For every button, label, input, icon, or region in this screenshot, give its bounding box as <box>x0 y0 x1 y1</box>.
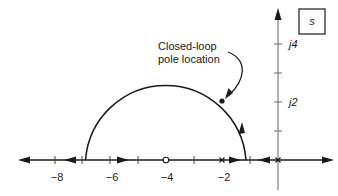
arrow-left-icon <box>64 157 76 164</box>
arrow-right-icon <box>229 157 241 164</box>
open-loop-zero-marker <box>163 157 169 163</box>
root-locus-arc <box>86 85 247 160</box>
tick-label-minus-8: −8 <box>51 171 64 183</box>
closed-loop-pole-marker <box>219 98 224 103</box>
arrow-left-icon <box>258 157 270 164</box>
tick-label-j4: j4 <box>287 38 298 50</box>
tick-label-minus-6: −6 <box>106 171 119 183</box>
arc-direction-arrow-icon <box>239 122 246 134</box>
tick-label-j2: j2 <box>287 96 298 108</box>
annotation-line-2: pole location <box>158 53 220 65</box>
tick-label-minus-4: −4 <box>161 171 174 183</box>
arrow-right-icon <box>117 157 129 164</box>
tick-label-minus-2: −2 <box>218 171 231 183</box>
real-axis-arrow-icon <box>322 157 334 164</box>
imag-axis-arrow-icon <box>275 8 282 20</box>
root-locus-diagram: j4 j2 s −8 −6 −4 −2 <box>0 0 338 196</box>
imaginary-axis <box>274 8 282 190</box>
annotation-arrow-icon <box>225 88 233 99</box>
annotation-line-1: Closed-loop <box>158 40 217 52</box>
annotation-leader-line <box>228 52 242 96</box>
s-plane-label: s <box>309 15 315 27</box>
s-plane-label-box: s <box>299 9 325 34</box>
arrow-left-icon <box>18 157 30 164</box>
